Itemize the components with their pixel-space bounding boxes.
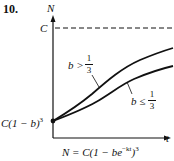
equation-caption: N = C(1 − be−kt)3 — [62, 146, 139, 158]
y-axis-label: N — [47, 3, 54, 14]
initial-point — [51, 119, 56, 124]
y-axis-arrow-icon — [51, 15, 56, 22]
chart-canvas — [0, 0, 174, 161]
x-axis-label: t — [166, 133, 169, 144]
curve-label-upper: b > — [68, 60, 84, 71]
leader-line-upper — [92, 75, 99, 87]
leader-line-lower — [127, 82, 132, 94]
curve-label-lower-fraction: 13 — [148, 90, 156, 111]
curve-label-upper-fraction: 13 — [85, 54, 93, 75]
intercept-label: C(1 − b)3 — [1, 117, 43, 129]
figure: 10. N C t C(1 − b)3 b > 13 b ≤ 13 N = C(… — [0, 0, 174, 161]
curve-label-lower: b ≤ — [131, 96, 145, 107]
asymptote-label: C — [40, 23, 47, 34]
